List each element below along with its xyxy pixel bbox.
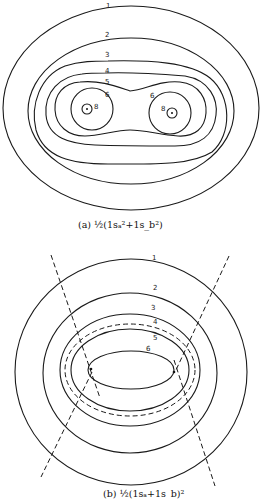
contour-a-3 bbox=[34, 61, 226, 164]
contour-b-3 bbox=[60, 314, 200, 426]
contour-b-6 bbox=[88, 351, 174, 389]
nucleus-b-left bbox=[90, 368, 93, 371]
label-a-4: 4 bbox=[105, 67, 110, 75]
caption-b-prefix: (b) bbox=[103, 488, 117, 499]
panel-b-labels: 1 2 3 4 5 6 bbox=[146, 254, 158, 353]
dashed-line-right bbox=[176, 256, 229, 370]
label-b-5: 5 bbox=[153, 334, 157, 342]
panel-b-contours bbox=[15, 255, 247, 486]
dashed-line-left bbox=[51, 255, 100, 398]
label-a-1: 1 bbox=[106, 2, 110, 10]
label-b-2: 2 bbox=[153, 284, 157, 292]
caption-a: (a) ½(1sₐ²+1s_b²) bbox=[78, 219, 163, 230]
label-a-6-left: 6 bbox=[105, 91, 110, 99]
panel-a-contours bbox=[3, 6, 259, 210]
caption-a-formula: ½(1sₐ²+1s_b²) bbox=[94, 219, 163, 230]
label-b-1: 1 bbox=[152, 254, 156, 262]
label-b-4: 4 bbox=[153, 318, 158, 326]
nucleus-a-left bbox=[86, 108, 88, 110]
contour-a-6-right bbox=[149, 92, 191, 134]
dashed-line-left-lower bbox=[41, 372, 92, 477]
caption-b: (b) ½(1sₐ+1s_b)² bbox=[103, 488, 184, 499]
contour-b-5 bbox=[71, 329, 189, 411]
panel-a-labels: 1 2 3 4 5 6 6 8 8 bbox=[94, 2, 165, 113]
nucleus-b-right bbox=[173, 371, 176, 374]
contour-a-1 bbox=[3, 6, 259, 210]
label-b-3: 3 bbox=[151, 304, 155, 312]
label-a-6-right: 6 bbox=[150, 92, 155, 100]
label-a-5: 5 bbox=[105, 78, 109, 86]
caption-a-prefix: (a) bbox=[78, 219, 91, 230]
caption-b-formula: ½(1sₐ+1s_b)² bbox=[120, 488, 185, 499]
label-b-6: 6 bbox=[146, 345, 151, 353]
label-a-3: 3 bbox=[105, 51, 109, 59]
label-a-8-left: 8 bbox=[94, 103, 98, 111]
label-a-2: 2 bbox=[105, 31, 109, 39]
contour-a-5 bbox=[55, 82, 206, 136]
nucleus-a-right bbox=[171, 112, 173, 114]
label-a-8-right: 8 bbox=[161, 105, 165, 113]
contour-b-2 bbox=[43, 293, 217, 453]
contour-a-2 bbox=[28, 38, 234, 184]
contour-b-4-dashed bbox=[65, 324, 195, 416]
